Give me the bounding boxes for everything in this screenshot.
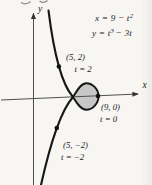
point-label-coords-t-neg2: (5, −2) xyxy=(63,140,88,150)
point-label-coords-t2: (5, 2) xyxy=(66,52,85,62)
point-marker-t-neg2 xyxy=(55,126,60,131)
point-marker-t0 xyxy=(96,94,101,99)
point-label-param-t0: t = 0 xyxy=(100,114,118,124)
equation-y-of-t: y = t3− 3t xyxy=(91,27,132,38)
cropped-text-remnants xyxy=(21,1,48,4)
x-axis xyxy=(1,94,138,100)
point-label-param-t2: t = 2 xyxy=(75,64,93,74)
point-marker-t2 xyxy=(57,64,62,69)
y-axis-label: y xyxy=(37,4,43,14)
point-label-coords-t0: (9, 0) xyxy=(101,102,120,112)
figure-svg: y x x = 9 − t2 y = t3− 3t (5, 2) t = 2 (… xyxy=(0,0,152,185)
parametric-curve-figure: y x x = 9 − t2 y = t3− 3t (5, 2) t = 2 (… xyxy=(0,0,152,185)
x-axis-label: x xyxy=(142,80,148,90)
point-label-param-t-neg2: t = −2 xyxy=(61,152,85,162)
equation-x-of-t: x = 9 − t2 xyxy=(94,12,134,23)
